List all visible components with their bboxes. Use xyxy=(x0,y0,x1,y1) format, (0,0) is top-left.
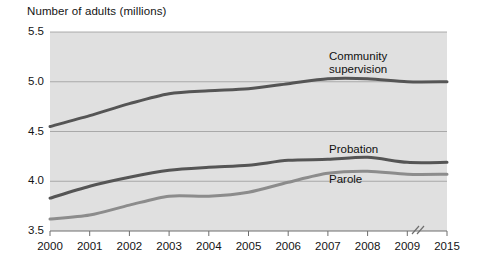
y-tick-label: 4.0 xyxy=(14,174,44,186)
line-chart-figure: Number of adults (millions) 5.55.04.54.0… xyxy=(0,0,480,264)
series-label-line-2: supervision xyxy=(329,63,387,76)
x-tick-label: 2005 xyxy=(227,240,271,252)
x-tick-label: 2008 xyxy=(346,240,390,252)
y-tick-label: 3.5 xyxy=(14,224,44,236)
series-label-parole: Parole xyxy=(329,173,362,186)
x-tick-label: 2002 xyxy=(107,240,151,252)
x-tick-label: 2009 xyxy=(385,240,429,252)
x-tick-label: 2015 xyxy=(425,240,469,252)
series-label-line-1: Community xyxy=(329,50,387,63)
x-axis-ticks xyxy=(50,231,447,236)
x-tick-label: 2006 xyxy=(266,240,310,252)
series-label-probation: Probation xyxy=(329,143,378,156)
x-tick-label: 2003 xyxy=(147,240,191,252)
x-tick-label: 2000 xyxy=(28,240,72,252)
y-tick-label: 5.0 xyxy=(14,75,44,87)
y-tick-label: 4.5 xyxy=(14,125,44,137)
series-label-community-supervision: Community supervision xyxy=(329,50,387,75)
x-tick-label: 2007 xyxy=(306,240,350,252)
x-tick-label: 2001 xyxy=(68,240,112,252)
plot-area xyxy=(0,0,480,264)
y-tick-label: 5.5 xyxy=(14,25,44,37)
x-tick-label: 2004 xyxy=(187,240,231,252)
